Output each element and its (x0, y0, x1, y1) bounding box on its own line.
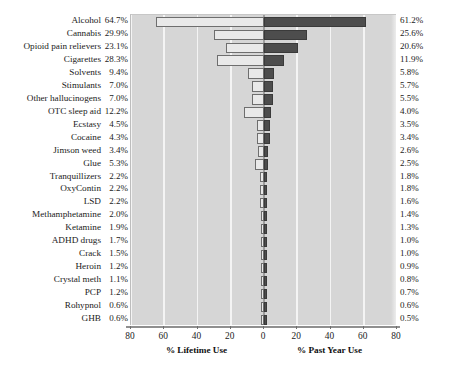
lifetime-use-value: 2.2% (109, 182, 128, 196)
bar-past-year-use (264, 276, 267, 286)
bar-past-year-use (264, 17, 366, 27)
past-year-use-value: 4.0% (400, 105, 419, 119)
category-label: LSD (84, 195, 101, 209)
x-axis-tick (197, 326, 198, 329)
axis-title-lifetime-use: % Lifetime Use (166, 345, 227, 355)
bar-lifetime-use (156, 17, 264, 27)
lifetime-use-value: 29.9% (105, 27, 128, 41)
bar-past-year-use (264, 198, 267, 208)
bar-lifetime-use (217, 55, 264, 65)
past-year-use-value: 3.4% (400, 131, 419, 145)
bar-past-year-use (264, 263, 267, 273)
bar-past-year-use (264, 81, 273, 91)
category-label-column: AlcoholCannabisOpioid pain relieversCiga… (0, 14, 104, 325)
lifetime-use-value: 1.7% (109, 234, 128, 248)
category-label: Crystal meth (54, 273, 101, 287)
bar-past-year-use (264, 185, 267, 195)
axis-title-past-year-use: % Past Year Use (297, 345, 362, 355)
category-label: Ketamine (65, 221, 101, 235)
past-year-use-value: 1.0% (400, 234, 419, 248)
category-label: Alcohol (71, 14, 101, 28)
lifetime-use-value: 2.2% (109, 195, 128, 209)
past-year-use-value: 11.9% (400, 53, 423, 67)
bar-row (131, 287, 396, 301)
category-label: Cannabis (67, 27, 101, 41)
category-label: Tranquillizers (50, 170, 101, 184)
bar-lifetime-use (214, 30, 264, 40)
past-year-use-value: 1.8% (400, 182, 419, 196)
x-axis-tick-label: 40 (325, 331, 334, 341)
x-axis-tick (163, 326, 164, 329)
lifetime-use-value: 4.3% (109, 131, 128, 145)
bar-row (131, 28, 396, 42)
lifetime-use-value: 0.6% (109, 312, 128, 326)
x-axis-tick-label: 60 (358, 331, 367, 341)
lifetime-use-value: 64.7% (105, 14, 128, 28)
bar-past-year-use (264, 159, 268, 169)
category-label: GHB (82, 312, 101, 326)
category-label: OTC sleep aid (48, 105, 101, 119)
bar-row (131, 132, 396, 146)
category-label: OxyContin (60, 182, 101, 196)
bar-lifetime-use (252, 81, 264, 91)
x-axis-tick-label: 80 (391, 331, 400, 341)
past-year-use-value: 0.9% (400, 260, 419, 274)
past-year-use-value: 0.6% (400, 299, 419, 313)
x-axis-tick (230, 326, 231, 329)
bar-past-year-use (264, 43, 298, 53)
bar-row (131, 300, 396, 314)
bar-row (131, 158, 396, 172)
x-axis-tick (263, 326, 264, 329)
past-year-use-value: 61.2% (400, 14, 423, 28)
bar-past-year-use (264, 133, 270, 143)
bar-row (131, 183, 396, 197)
bar-row (131, 54, 396, 68)
lifetime-use-value: 1.1% (109, 273, 128, 287)
bar-past-year-use (264, 146, 268, 156)
bar-row (131, 67, 396, 81)
past-year-use-value: 5.7% (400, 79, 419, 93)
bar-row (131, 93, 396, 107)
category-label: Other hallucinogens (27, 92, 101, 106)
past-year-use-value: 1.6% (400, 195, 419, 209)
bar-row (131, 145, 396, 159)
x-axis-tick (363, 326, 364, 329)
past-year-use-value: 2.6% (400, 144, 419, 158)
category-label: Stimulants (62, 79, 101, 93)
lifetime-use-value: 4.5% (109, 118, 128, 132)
category-label: Rohypnol (65, 299, 101, 313)
past-year-use-value: 1.3% (400, 221, 419, 235)
lifetime-use-value: 1.9% (109, 221, 128, 235)
x-axis-tick (130, 326, 131, 329)
lifetime-use-value: 2.2% (109, 170, 128, 184)
category-label: Cigarettes (64, 53, 101, 67)
bar-past-year-use (264, 68, 274, 78)
past-year-use-value: 0.8% (400, 273, 419, 287)
bar-past-year-use (264, 224, 267, 234)
category-label: Solvents (69, 66, 101, 80)
x-axis-tick-label: 20 (292, 331, 301, 341)
bar-past-year-use (264, 315, 267, 325)
lifetime-use-value: 3.4% (109, 144, 128, 158)
category-label: Glue (83, 157, 101, 171)
bar-past-year-use (264, 55, 284, 65)
x-axis-tick-label: 60 (159, 331, 168, 341)
category-label: Jimson weed (53, 144, 101, 158)
bar-lifetime-use (255, 159, 264, 169)
x-axis-tick (296, 326, 297, 329)
bar-row (131, 171, 396, 185)
lifetime-use-value-column: 64.7%29.9%23.1%28.3%9.4%7.0%7.0%12.2%4.5… (104, 14, 130, 325)
lifetime-use-value: 1.2% (109, 286, 128, 300)
bar-row (131, 274, 396, 288)
bar-past-year-use (264, 172, 267, 182)
bar-row (131, 106, 396, 120)
category-label: PCP (85, 286, 101, 300)
past-year-use-value: 25.6% (400, 27, 423, 41)
diverging-bar-chart: AlcoholCannabisOpioid pain relieversCiga… (0, 0, 454, 367)
bar-past-year-use (264, 250, 267, 260)
bar-lifetime-use (257, 133, 264, 143)
x-axis-tick-label: 80 (125, 331, 134, 341)
category-label: Heroin (75, 260, 101, 274)
bar-past-year-use (264, 94, 273, 104)
bar-lifetime-use (244, 107, 264, 117)
